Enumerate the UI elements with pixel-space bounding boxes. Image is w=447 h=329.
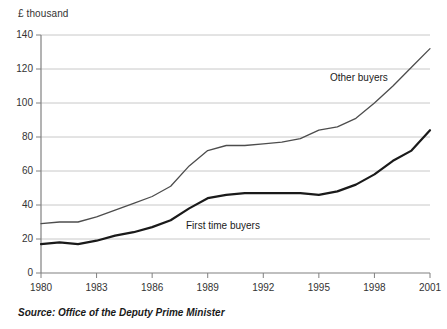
source-note: Source: Office of the Deputy Prime Minis… [18,307,225,318]
y-tick-label: 140 [7,29,33,40]
x-tick-label: 1995 [299,282,339,293]
y-tick-label: 20 [7,233,33,244]
y-tick-label: 60 [7,165,33,176]
y-tick-label: 0 [7,267,33,278]
x-tick-label: 1986 [132,282,172,293]
y-tick-label: 40 [7,199,33,210]
x-tick-label: 1998 [354,282,394,293]
y-tick-label: 120 [7,63,33,74]
x-tick-label: 2001 [410,282,447,293]
x-tick-label: 1992 [243,282,283,293]
plot-area [0,0,447,329]
x-tick-label: 1983 [77,282,117,293]
house-price-line-chart: £ thousand 020406080100120140 1980198319… [0,0,447,329]
x-tick-label: 1980 [21,282,61,293]
y-tick-label: 100 [7,97,33,108]
x-tick-label: 1989 [188,282,228,293]
y-tick-label: 80 [7,131,33,142]
series-label-first-time-buyers: First time buyers [186,220,260,231]
series-label-other-buyers: Other buyers [330,72,388,83]
